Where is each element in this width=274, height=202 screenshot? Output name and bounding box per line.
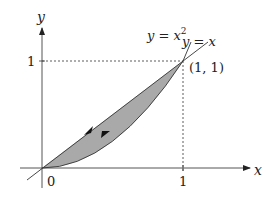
diagram: y x 0 1 1 (1, 1) y = x2 y = x xyxy=(0,0,274,202)
y-tick-label: 1 xyxy=(27,54,35,69)
parabola-label: y = x2 xyxy=(146,26,187,43)
parabola-label-text: y = x xyxy=(146,28,182,43)
parabola-y-equals-x-squared xyxy=(42,42,191,168)
x-tick-label: 1 xyxy=(179,174,187,189)
point-label: (1, 1) xyxy=(189,60,224,75)
line-y-equals-x xyxy=(27,42,208,180)
origin-label: 0 xyxy=(47,174,55,189)
x-axis-label: x xyxy=(254,162,262,178)
line-label: y = x xyxy=(181,34,217,49)
y-axis-label: y xyxy=(36,9,46,25)
